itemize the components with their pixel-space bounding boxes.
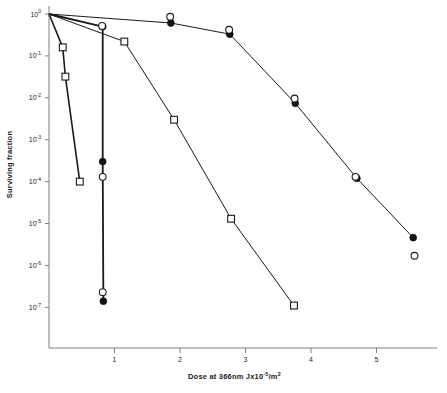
y-tick-label: 10-5 [29, 218, 41, 227]
data-series [49, 13, 418, 309]
marker-open-square [121, 38, 128, 45]
y-tick-exponent: -3 [37, 134, 42, 140]
x-axis-title-pre: Dose at 366nm Jx10 [188, 372, 263, 381]
y-tick-label: 10-3 [29, 134, 41, 143]
marker-filled-circle [99, 158, 106, 165]
y-tick-label: 10-1 [29, 50, 41, 59]
marker-open-circle [411, 252, 418, 259]
series-line [49, 14, 294, 306]
x-tick-label: 2 [178, 356, 182, 363]
marker-open-square [62, 73, 69, 80]
y-tick-label: 10-7 [29, 302, 41, 311]
y-tick-label: 100 [30, 8, 41, 17]
x-tick-label: 3 [244, 356, 248, 363]
y-tick-exponent: -5 [37, 218, 42, 224]
x-axis-title-mid: /m [269, 372, 278, 381]
x-tick-label: 1 [113, 356, 117, 363]
marker-open-square [59, 44, 66, 51]
x-axis-title-exponent-2: 2 [278, 371, 281, 377]
plot-area: 10010-110-210-310-410-510-610-712345 [0, 0, 447, 393]
marker-filled-circle [410, 234, 417, 241]
series-steep-open-square [49, 14, 83, 185]
y-tick-exponent: -4 [37, 176, 42, 182]
series-shallow-filled-circle [49, 14, 417, 241]
marker-open-square [228, 215, 235, 222]
marker-filled-circle [100, 298, 107, 305]
marker-open-square [291, 302, 298, 309]
series-line [49, 14, 80, 182]
marker-open-circle [99, 289, 106, 296]
survival-curve-chart: 10010-110-210-310-410-510-610-712345 Sur… [0, 0, 447, 393]
y-tick-label: 10-6 [29, 260, 41, 269]
series-mid-open-square [49, 14, 297, 309]
marker-open-square [76, 178, 83, 185]
y-tick-label: 10-2 [29, 92, 41, 101]
marker-open-circle [99, 22, 106, 29]
y-tick-exponent: 0 [38, 8, 41, 14]
y-tick-exponent: -7 [37, 302, 42, 308]
y-tick-exponent: -1 [37, 50, 42, 56]
marker-open-circle [167, 13, 174, 20]
marker-open-circle [291, 95, 298, 102]
y-tick-exponent: -2 [37, 92, 42, 98]
x-tick-label: 5 [375, 356, 379, 363]
series-shallow-open-circle [167, 13, 418, 259]
series-steep-filled-circle [49, 14, 107, 305]
y-tick-exponent: -6 [37, 260, 42, 266]
marker-open-circle [226, 26, 233, 33]
marker-open-circle [352, 173, 359, 180]
axis-tick-labels: 10010-110-210-310-410-510-610-712345 [29, 8, 379, 363]
marker-open-square [171, 116, 178, 123]
x-axis-title: Dose at 366nm Jx10-5/m2 [188, 372, 281, 381]
y-tick-label: 10-4 [29, 176, 41, 185]
marker-open-circle [99, 173, 106, 180]
axes [49, 6, 437, 348]
x-tick-label: 4 [309, 356, 313, 363]
y-axis-title: Surviving fraction [5, 130, 14, 200]
